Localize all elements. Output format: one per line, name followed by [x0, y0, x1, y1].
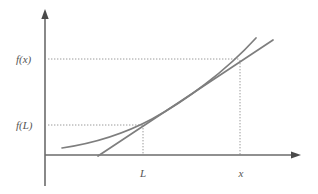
- label-x-axis-x: x: [238, 167, 244, 179]
- x-axis-arrowhead-icon: [291, 151, 301, 158]
- label-x-axis-l: L: [139, 167, 146, 179]
- label-f-of-x: f(x): [16, 53, 32, 66]
- figure-container: f(x) f(L) L x: [0, 0, 318, 194]
- y-axis-arrowhead-icon: [41, 9, 48, 19]
- function-curve: [62, 38, 256, 148]
- label-f-of-l: f(L): [16, 119, 33, 132]
- math-diagram-svg: f(x) f(L) L x: [0, 0, 318, 194]
- chord-line: [98, 40, 273, 156]
